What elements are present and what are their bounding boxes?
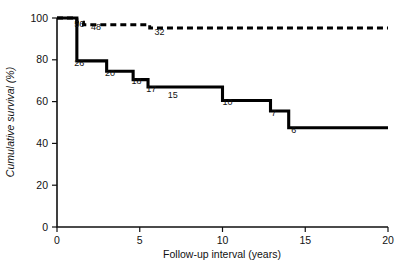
- x-tick-label: 5: [137, 234, 143, 246]
- at-risk-label: 26: [74, 58, 84, 68]
- x-tick-label: 10: [217, 234, 229, 246]
- at-risk-label: 10: [222, 97, 232, 107]
- at-risk-number-labels: 56483226201817151076: [74, 19, 296, 135]
- y-tick-label: 40: [36, 137, 48, 149]
- survival-curve-dashed: [57, 18, 388, 28]
- x-tick-label: 20: [382, 234, 394, 246]
- chart-canvas: 020406080100 05101520 564832262018171510…: [0, 0, 409, 267]
- x-tick-label: 0: [54, 234, 60, 246]
- y-axis-title: Cumulative survival (%): [4, 67, 16, 177]
- at-risk-label: 15: [168, 90, 178, 100]
- at-risk-label: 20: [105, 68, 115, 78]
- y-tick-label: 0: [42, 221, 48, 233]
- x-axis-ticks: 05101520: [54, 227, 394, 246]
- at-risk-label: 7: [271, 108, 276, 118]
- x-axis-title: Follow-up interval (years): [163, 248, 281, 260]
- at-risk-label: 6: [291, 125, 296, 135]
- axis-lines: [57, 18, 388, 227]
- at-risk-label: 56: [74, 19, 84, 29]
- at-risk-label: 17: [146, 84, 156, 94]
- y-axis-ticks: 020406080100: [30, 12, 57, 233]
- survival-chart: 020406080100 05101520 564832262018171510…: [0, 0, 409, 267]
- plot-axes: [57, 18, 388, 227]
- x-tick-label: 15: [299, 234, 311, 246]
- at-risk-label: 32: [155, 27, 165, 37]
- y-tick-label: 20: [36, 179, 48, 191]
- y-tick-label: 60: [36, 95, 48, 107]
- y-tick-label: 80: [36, 53, 48, 65]
- y-tick-label: 100: [30, 12, 48, 24]
- at-risk-label: 18: [131, 76, 141, 86]
- at-risk-label: 48: [91, 22, 101, 32]
